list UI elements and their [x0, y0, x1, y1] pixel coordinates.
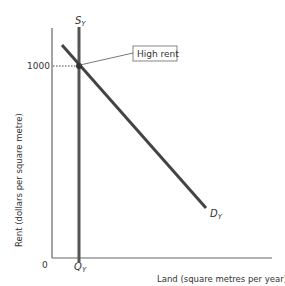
y-axis-label: Rent (dollars per square metre) [14, 113, 24, 247]
y-tick-1000: 1000 [27, 61, 50, 71]
callout-leader [80, 53, 133, 65]
supply-label: SY [75, 15, 86, 28]
demand-label: DY [210, 208, 223, 221]
x-axis-label: Land (square metres per year) [157, 274, 285, 284]
origin-label: 0 [42, 260, 48, 270]
callout-text: High rent [137, 49, 179, 59]
equilibrium-point [76, 63, 82, 69]
quantity-label: QY [74, 261, 87, 274]
chart-canvas: High rent 1000 Rent (dollars per square … [0, 0, 285, 286]
demand-curve [62, 45, 206, 208]
